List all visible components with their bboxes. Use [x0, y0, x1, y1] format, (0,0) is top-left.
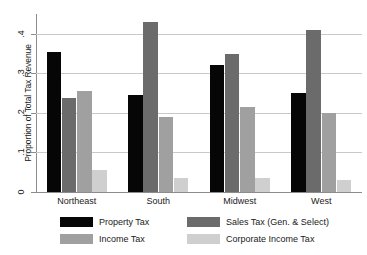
- bar-south-property-tax: [128, 95, 143, 192]
- x-axis-line: [36, 192, 362, 193]
- bar-west-sales-tax-gen-select: [306, 30, 321, 192]
- legend-swatch-2: [187, 217, 220, 227]
- y-tick-label-02: .2: [12, 107, 30, 119]
- bar-midwest-property-tax: [210, 65, 225, 192]
- chart-legend: Property TaxIncome TaxSales Tax (Gen. & …: [60, 216, 318, 248]
- legend-swatch-3: [187, 234, 220, 244]
- bar-northeast-income-tax: [77, 91, 92, 192]
- x-category-label-west: West: [281, 196, 361, 206]
- bar-west-corporate-income-tax: [337, 180, 352, 192]
- y-tick-label-04: .4: [12, 28, 30, 40]
- legend-swatch-1: [60, 234, 93, 244]
- y-tick-label-01: .1: [12, 146, 30, 158]
- legend-item-income-tax[interactable]: Income Tax: [60, 233, 145, 245]
- x-category-label-south: South: [118, 196, 198, 206]
- x-category-label-northeast: Northeast: [37, 196, 117, 206]
- bar-west-property-tax: [291, 93, 306, 192]
- legend-label-3: Corporate Income Tax: [226, 234, 314, 244]
- y-tick-mark-0: [31, 192, 36, 193]
- legend-item-corporate-income-tax[interactable]: Corporate Income Tax: [187, 233, 314, 245]
- x-category-label-midwest: Midwest: [200, 196, 280, 206]
- plot-area: [36, 14, 362, 192]
- legend-item-property-tax[interactable]: Property Tax: [60, 216, 149, 228]
- legend-label-2: Sales Tax (Gen. & Select): [226, 217, 329, 227]
- bar-northeast-corporate-income-tax: [92, 170, 107, 192]
- bar-midwest-income-tax: [240, 107, 255, 192]
- bar-south-sales-tax-gen-select: [143, 22, 158, 192]
- y-tick-label-03: .3: [12, 67, 30, 79]
- bar-south-income-tax: [159, 117, 174, 192]
- legend-label-1: Income Tax: [99, 234, 145, 244]
- bar-midwest-corporate-income-tax: [255, 178, 270, 192]
- legend-item-sales-tax-gen-select[interactable]: Sales Tax (Gen. & Select): [187, 216, 329, 228]
- bar-midwest-sales-tax-gen-select: [225, 54, 240, 192]
- bar-northeast-property-tax: [47, 52, 62, 192]
- y-tick-label-00: 0: [12, 186, 30, 198]
- legend-swatch-0: [60, 217, 93, 227]
- bar-west-income-tax: [322, 113, 337, 192]
- bar-south-corporate-income-tax: [174, 178, 189, 192]
- grouped-bar-chart: Proportion of Total Tax Revenue .4 .3 .2…: [0, 0, 367, 255]
- legend-label-0: Property Tax: [99, 217, 149, 227]
- bar-northeast-sales-tax-gen-select: [62, 98, 77, 192]
